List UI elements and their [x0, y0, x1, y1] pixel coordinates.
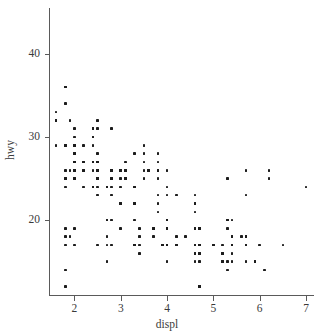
data-point	[133, 202, 136, 205]
data-point	[96, 119, 99, 122]
data-point	[64, 186, 67, 189]
data-point	[198, 252, 201, 255]
data-point	[82, 161, 85, 164]
data-point	[245, 260, 248, 263]
data-point	[157, 152, 160, 155]
data-point	[268, 177, 271, 180]
data-point	[231, 219, 234, 222]
data-point	[157, 194, 160, 197]
x-tick-label: 5	[201, 303, 225, 315]
data-point	[198, 227, 201, 230]
x-tick-mark	[121, 296, 122, 301]
data-point	[143, 144, 146, 147]
data-point	[64, 102, 67, 105]
data-point	[138, 235, 141, 238]
data-point	[64, 285, 67, 288]
x-tick-mark	[306, 296, 307, 301]
data-point	[245, 169, 248, 172]
data-point	[226, 227, 229, 230]
data-point	[69, 119, 72, 122]
y-axis-title: hwy	[4, 130, 16, 170]
x-tick-mark	[167, 296, 168, 301]
data-point	[96, 194, 99, 197]
data-point	[157, 161, 160, 164]
data-point	[245, 235, 248, 238]
data-point	[106, 260, 109, 263]
data-point	[161, 244, 164, 247]
data-point	[64, 227, 67, 230]
data-point	[268, 169, 271, 172]
data-point	[110, 194, 113, 197]
data-point	[226, 177, 229, 180]
data-point	[254, 260, 257, 263]
data-point	[226, 269, 229, 272]
data-point	[96, 152, 99, 155]
data-point	[143, 152, 146, 155]
data-point	[73, 144, 76, 147]
data-point	[194, 227, 197, 230]
data-point	[226, 260, 229, 263]
data-point	[69, 235, 72, 238]
data-point	[184, 235, 187, 238]
data-point	[240, 235, 243, 238]
data-point	[198, 244, 201, 247]
data-point	[305, 186, 308, 189]
y-tick-label: 40	[14, 48, 40, 60]
x-tick-mark	[213, 296, 214, 301]
x-tick-label: 2	[62, 303, 86, 315]
y-tick-label: 20	[14, 214, 40, 226]
data-point	[133, 244, 136, 247]
data-point	[124, 169, 127, 172]
data-point	[119, 202, 122, 205]
data-point	[110, 244, 113, 247]
data-point	[96, 169, 99, 172]
data-point	[133, 186, 136, 189]
data-point	[106, 219, 109, 222]
data-point	[73, 177, 76, 180]
data-point	[73, 227, 76, 230]
data-point	[64, 144, 67, 147]
data-point	[92, 127, 95, 130]
data-point	[194, 202, 197, 205]
data-point	[231, 260, 234, 263]
data-point	[221, 260, 224, 263]
data-point	[194, 194, 197, 197]
data-point	[64, 269, 67, 272]
data-point	[73, 161, 76, 164]
data-point	[73, 169, 76, 172]
data-point	[92, 169, 95, 172]
data-point	[175, 194, 178, 197]
data-point	[166, 194, 169, 197]
data-point	[263, 269, 266, 272]
data-point	[198, 260, 201, 263]
data-point	[166, 260, 169, 263]
data-point	[96, 177, 99, 180]
data-point	[92, 144, 95, 147]
data-point	[124, 161, 127, 164]
data-point	[194, 211, 197, 214]
data-point	[64, 86, 67, 89]
data-point	[106, 235, 109, 238]
x-tick-mark	[74, 296, 75, 301]
data-point	[64, 169, 67, 172]
data-point	[55, 119, 58, 122]
data-point	[64, 177, 67, 180]
data-point	[73, 127, 76, 130]
data-point	[82, 186, 85, 189]
data-point	[82, 144, 85, 147]
data-point	[157, 177, 160, 180]
data-point	[138, 244, 141, 247]
data-point	[194, 260, 197, 263]
data-point	[119, 227, 122, 230]
x-tick-mark	[260, 296, 261, 301]
data-point	[152, 227, 155, 230]
data-point	[64, 244, 67, 247]
data-point	[92, 136, 95, 139]
data-point	[96, 244, 99, 247]
data-point	[231, 235, 234, 238]
data-point	[119, 177, 122, 180]
data-point	[245, 244, 248, 247]
data-point	[166, 219, 169, 222]
data-point	[55, 144, 58, 147]
data-point	[166, 169, 169, 172]
